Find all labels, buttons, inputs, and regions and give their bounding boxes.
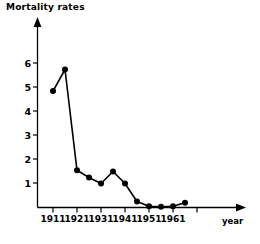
- data-point-marker: [170, 203, 176, 209]
- x-axis-ticks: [53, 208, 197, 213]
- mortality-rates-chart: Mortality rates 1 2: [0, 0, 260, 244]
- data-point-marker: [182, 200, 188, 206]
- y-tick-label: 5: [24, 82, 31, 93]
- data-point-marker: [158, 204, 164, 210]
- data-point-marker: [86, 175, 92, 181]
- data-point-marker: [122, 181, 128, 187]
- data-point-marker: [134, 199, 140, 205]
- x-tick-label: 1951: [136, 214, 161, 224]
- y-axis-arrowhead: [34, 17, 42, 27]
- data-point-marker: [98, 181, 104, 187]
- x-tick-label: 1911: [40, 214, 65, 224]
- data-series-markers: [50, 67, 188, 210]
- y-tick-label: 2: [24, 154, 31, 165]
- plot-area: [0, 0, 260, 244]
- y-tick-label: 4: [24, 106, 31, 117]
- y-tick-label: 6: [24, 58, 31, 69]
- data-point-marker: [110, 169, 116, 175]
- data-point-marker: [62, 67, 68, 73]
- x-tick-label: 1961: [160, 214, 185, 224]
- x-axis-arrowhead: [236, 204, 246, 212]
- x-axis-label: year: [222, 216, 243, 226]
- x-tick-label: 1921: [64, 214, 89, 224]
- y-axis-ticks: [33, 63, 38, 183]
- x-tick-label: 1941: [112, 214, 137, 224]
- y-tick-label: 1: [24, 178, 31, 189]
- data-point-marker: [74, 167, 80, 173]
- data-point-marker: [146, 203, 152, 209]
- data-series-line: [53, 70, 185, 207]
- x-tick-label: 1931: [88, 214, 113, 224]
- y-tick-label: 3: [24, 130, 31, 141]
- data-point-marker: [50, 88, 56, 94]
